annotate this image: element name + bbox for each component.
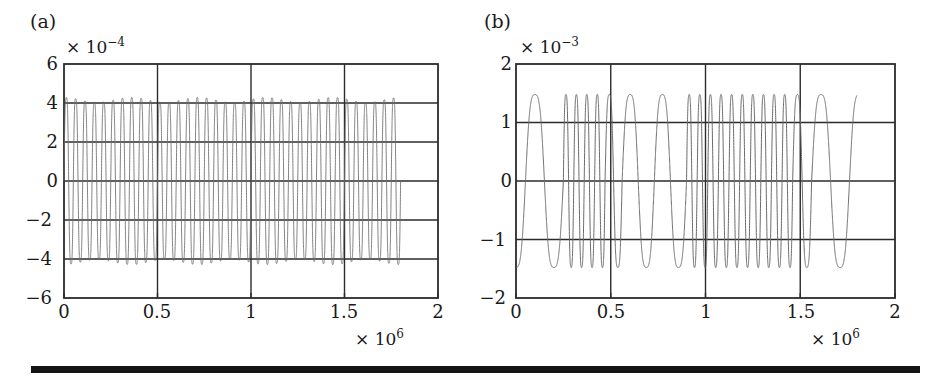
bottom-horizontal-rule — [31, 366, 920, 373]
figure-root: (a) × 10−4 6 4 2 0 −2 −4 −6 0 0.5 1 1.5 … — [0, 0, 936, 386]
panel-a-plot-area — [0, 0, 468, 386]
panel-b: (b) × 10−3 2 1 0 −1 −2 0 0.5 1 1.5 2 × 1… — [468, 0, 936, 386]
panel-a: (a) × 10−4 6 4 2 0 −2 −4 −6 0 0.5 1 1.5 … — [0, 0, 468, 386]
panel-b-plot-area — [468, 0, 936, 386]
